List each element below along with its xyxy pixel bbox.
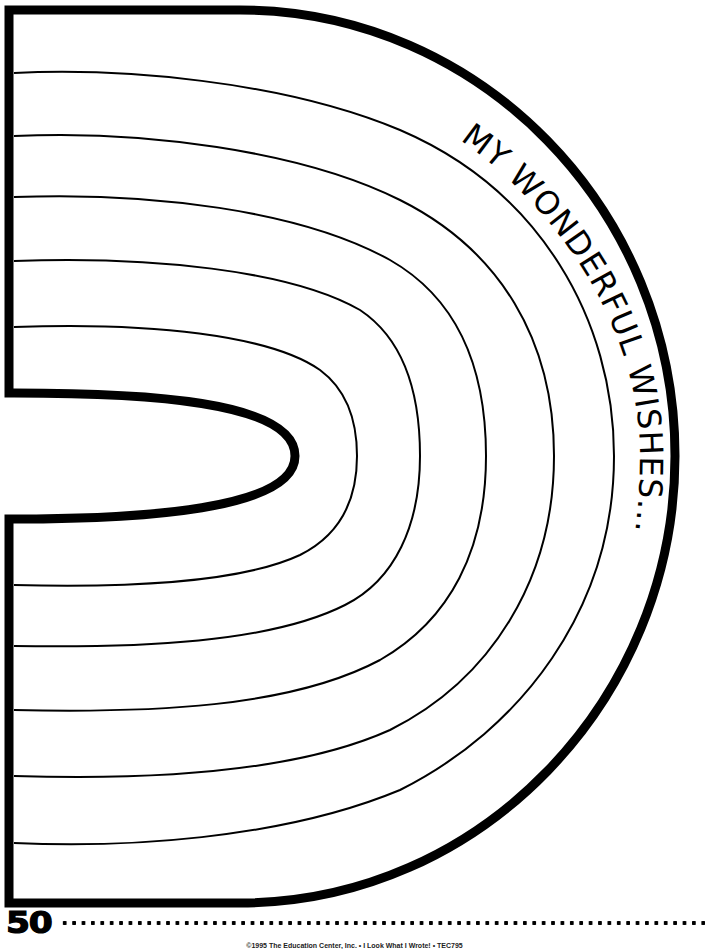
copyright-notice: ©1995 The Education Center, Inc. • I Loo…	[0, 942, 709, 949]
page-number: 50	[6, 908, 52, 938]
rainbow-worksheet: MY WONDERFUL WISHES...	[0, 0, 709, 910]
outer-border	[9, 10, 675, 903]
page-footer: 50 ©1995 The Education Center, Inc. • I …	[0, 906, 709, 948]
dotted-divider	[60, 920, 705, 926]
